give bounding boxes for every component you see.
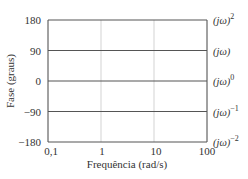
y-tick-label: 180 (25, 14, 42, 26)
y-tick-label: 0 (36, 75, 42, 87)
y-tick-label: −90 (24, 106, 42, 118)
x-tick-label: 10 (151, 145, 163, 157)
series-label-jw-neg1: (jω)−1 (213, 104, 239, 119)
y-tick-label: −180 (18, 136, 41, 148)
x-tick-label: 1 (99, 145, 105, 157)
phase-plot: 180 90 0 −90 −180 0,1 1 10 100 Frequênci… (0, 0, 248, 179)
x-axis-label: Frequência (rad/s) (87, 158, 168, 171)
y-tick-label: 90 (30, 45, 42, 57)
series-label-jw-2: (jω)2 (213, 12, 234, 27)
y-axis-label: Fase (graus) (4, 54, 17, 108)
series-label-jw-1: (jω) (213, 46, 231, 58)
series-label-jw-0: (jω)0 (213, 73, 234, 88)
series-label-jw-neg2: (jω)−2 (213, 134, 239, 149)
x-tick-label: 0,1 (44, 145, 58, 157)
